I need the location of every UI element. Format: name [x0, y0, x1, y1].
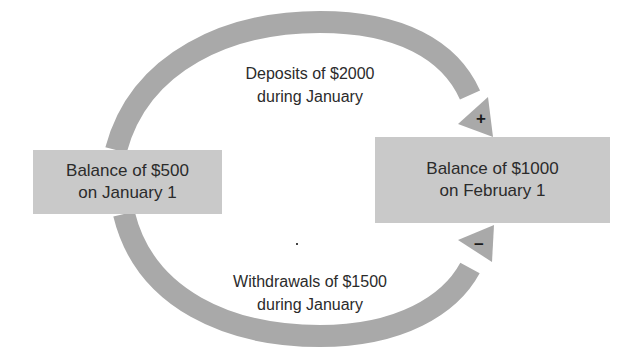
- deposits-label: Deposits of $2000 during January: [215, 62, 405, 108]
- stray-dot: [296, 243, 298, 245]
- withdrawals-line2: during January: [205, 293, 415, 316]
- withdrawals-line1: Withdrawals of $1500: [205, 270, 415, 293]
- start-balance-line1: Balance of $500: [66, 160, 189, 182]
- withdrawals-label: Withdrawals of $1500 during January: [205, 270, 415, 316]
- start-balance-line2: on January 1: [78, 182, 176, 204]
- deposits-line2: during January: [215, 85, 405, 108]
- end-balance-line2: on February 1: [440, 180, 546, 202]
- plus-sign-icon: +: [476, 110, 486, 127]
- minus-sign-icon: −: [474, 236, 484, 253]
- start-balance-box: Balance of $500 on January 1: [33, 150, 222, 214]
- deposits-line1: Deposits of $2000: [215, 62, 405, 85]
- end-balance-line1: Balance of $1000: [426, 158, 558, 180]
- end-balance-box: Balance of $1000 on February 1: [375, 137, 610, 223]
